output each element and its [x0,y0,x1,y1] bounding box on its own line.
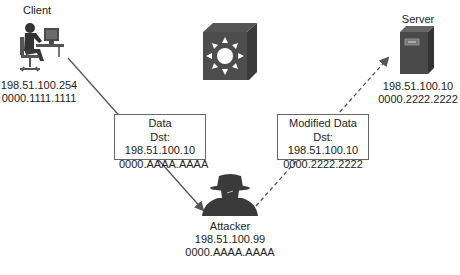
attacker-mac: 0000.AAAA.AAAA [185,246,275,259]
modified-frame-dst: Dst: 198.51.100.10 [282,131,364,158]
server-mac: 0000.2222.2222 [376,93,460,106]
data-frame-box: Data Dst: 198.51.100.10 0000.AAAA.AAAA [114,114,206,160]
server-tower-icon [400,26,434,74]
modified-frame-mac: 0000.2222.2222 [282,158,364,172]
client-title: Client [15,4,59,17]
attacker-title: Attacker [200,220,260,233]
layer3-switch-icon [200,20,260,80]
workstation-user-icon [12,19,68,75]
spy-hat-icon [200,172,260,216]
attacker-ip: 198.51.100.99 [185,233,275,246]
client-ip: 198.51.100.254 [0,79,78,92]
data-frame-mac: 0000.AAAA.AAAA [119,158,201,172]
modified-data-frame-box: Modified Data Dst: 198.51.100.10 0000.22… [277,114,369,160]
server-ip: 198.51.100.10 [376,80,460,93]
server-title: Server [396,13,440,26]
client-mac: 0000.1111.1111 [0,92,78,105]
data-frame-dst: Dst: 198.51.100.10 [119,131,201,158]
data-frame-title: Data [119,117,201,131]
modified-frame-title: Modified Data [282,117,364,131]
